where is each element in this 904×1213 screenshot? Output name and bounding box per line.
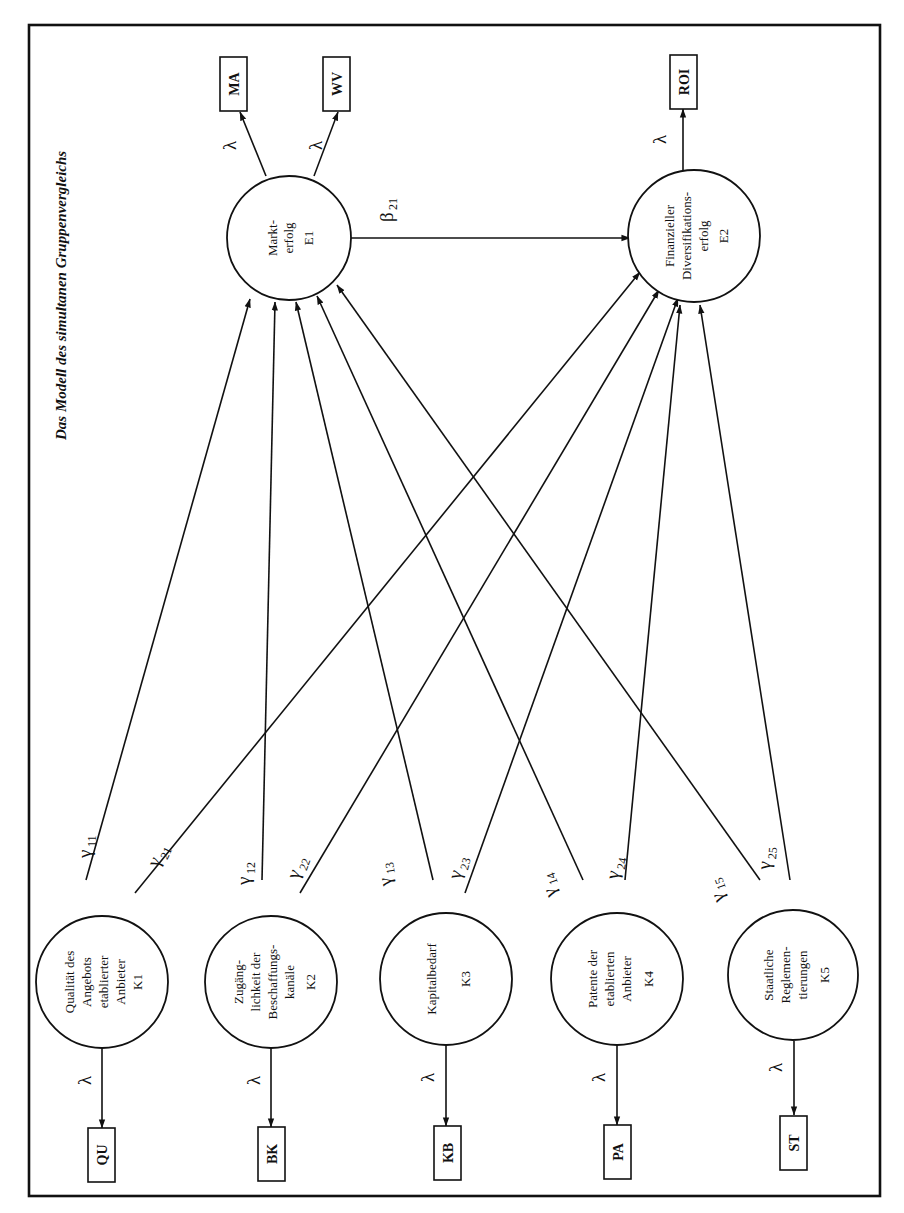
- k2-label-id: K2: [303, 974, 318, 990]
- svg-text:γ: γ: [538, 886, 561, 902]
- path-gamma-14: [317, 296, 583, 880]
- k1-label-line-4: Anbieter: [113, 959, 128, 1005]
- indicator-label-wv: WV: [330, 72, 345, 96]
- indicator-label-kb: KB: [441, 1143, 456, 1163]
- lambda-kb: λ: [417, 1072, 438, 1082]
- indicator-label-st: ST: [787, 1134, 802, 1152]
- k4-label-line-2: etablierten: [602, 951, 617, 1006]
- svg-text:λ: λ: [243, 1075, 264, 1085]
- latent-e1: Markt- erfolg E1 λ λ MA WV: [219, 57, 351, 300]
- e1-label-line-2: erfolg: [281, 222, 296, 254]
- svg-text:λ: λ: [588, 1072, 609, 1082]
- e2-circle: [628, 170, 760, 302]
- e1-label-id: E1: [301, 231, 316, 245]
- k5-label-line-1: Staatliche: [761, 949, 776, 1000]
- svg-text:λ: λ: [765, 1062, 786, 1072]
- gamma-labels: γ11 γ21 γ12 γ22 γ13 γ23 γ14 γ24 γ15 γ25: [74, 835, 780, 906]
- gamma-paths-to-e2: [135, 272, 790, 893]
- e2-label-line-2: Diversifikations-: [679, 192, 694, 280]
- lambda-bk: λ: [243, 1075, 264, 1085]
- svg-text:25: 25: [765, 847, 780, 860]
- svg-text:14: 14: [543, 871, 560, 887]
- gamma-15-label: γ15: [701, 876, 733, 907]
- lambda-ma: λ: [219, 140, 240, 150]
- svg-text:γ: γ: [753, 860, 775, 871]
- latent-k4: Patente der etablierten Anbieter K4 λ PA: [551, 913, 683, 1179]
- gamma-23-label: γ23: [443, 853, 473, 883]
- svg-text:12: 12: [244, 862, 258, 874]
- svg-text:23: 23: [457, 856, 474, 871]
- svg-text:13: 13: [382, 861, 398, 875]
- k2-label-line-2: lichkeit der: [248, 952, 263, 1012]
- lambda-pa: λ: [588, 1072, 609, 1082]
- latent-k1: Qualität des Angebots etablierter Anbiet…: [36, 916, 168, 1182]
- indicator-label-ma: MA: [227, 71, 242, 95]
- k5-label-id: K5: [817, 967, 832, 983]
- k4-label-id: K4: [641, 971, 656, 987]
- indicator-label-pa: PA: [611, 1142, 626, 1161]
- k5-label-line-2: Reglemen-: [778, 946, 793, 1003]
- path-gamma-23: [465, 298, 678, 893]
- loading-e1-ma: [240, 112, 266, 176]
- k1-label-line-1: Qualität des: [62, 951, 77, 1013]
- lambda-wv: λ: [305, 140, 326, 150]
- indicator-label-bk: BK: [265, 1144, 280, 1164]
- path-diagram: Das Modell des simultanen Gruppenverglei…: [0, 0, 904, 1213]
- svg-text:γ: γ: [601, 869, 623, 882]
- svg-text:21: 21: [386, 198, 400, 210]
- k2-label-line-3: Beschaffungs-: [265, 945, 280, 1020]
- k1-label-line-3: etablierter: [96, 955, 111, 1008]
- svg-text:β: β: [376, 212, 397, 222]
- k2-label-line-4: kanäle: [282, 965, 297, 999]
- svg-text:15: 15: [711, 876, 728, 892]
- k4-label-line-1: Patente der: [585, 949, 600, 1008]
- svg-text:λ: λ: [305, 140, 326, 150]
- k3-label-line-1: Kapitalbedarf: [424, 943, 439, 1015]
- svg-text:22: 22: [296, 856, 313, 872]
- svg-text:λ: λ: [74, 1075, 95, 1085]
- k3-circle: [380, 913, 512, 1045]
- path-gamma-22: [300, 290, 659, 893]
- latent-k5: Staatliche Reglemen- tierungen K5 λ ST: [728, 910, 858, 1170]
- k3-label-id: K3: [458, 971, 473, 987]
- gamma-21-label: γ21: [142, 840, 175, 872]
- indicator-label-roi: ROI: [677, 69, 692, 95]
- e2-label-line-1: Finanzieller: [662, 204, 677, 267]
- latent-k3: Kapitalbedarf K3 λ KB: [380, 913, 512, 1180]
- e1-label-line-1: Markt-: [265, 220, 280, 256]
- svg-text:γ: γ: [74, 850, 95, 859]
- svg-text:11: 11: [85, 835, 99, 847]
- beta-21-label: β 21: [376, 198, 400, 222]
- svg-text:λ: λ: [417, 1072, 438, 1082]
- path-gamma-21: [135, 272, 640, 893]
- gamma-paths-to-e1: [86, 285, 760, 880]
- gamma-11-label: γ11: [74, 835, 99, 859]
- path-gamma-25: [700, 305, 790, 880]
- svg-text:γ: γ: [233, 877, 254, 886]
- gamma-12-label: γ12: [233, 862, 258, 886]
- e2-label-id: E2: [716, 229, 731, 243]
- k5-circle: [728, 910, 858, 1040]
- path-gamma-24: [625, 305, 680, 880]
- k1-label-line-2: Angebots: [79, 957, 94, 1007]
- e2-label-line-3: erfolg: [696, 220, 711, 252]
- gamma-13-label: γ13: [371, 861, 400, 889]
- path-gamma-12: [262, 302, 275, 880]
- k4-circle: [551, 913, 683, 1045]
- k5-label-line-3: tierungen: [795, 950, 810, 1000]
- svg-text:24: 24: [614, 856, 630, 870]
- indicator-label-qu: QU: [95, 1145, 110, 1166]
- svg-text:γ: γ: [374, 876, 396, 889]
- gamma-14-label: γ14: [533, 871, 565, 902]
- diagram-canvas: Das Modell des simultanen Gruppenverglei…: [0, 0, 904, 1213]
- path-gamma-15: [337, 285, 760, 880]
- k4-label-line-3: Anbieter: [619, 956, 634, 1002]
- svg-text:λ: λ: [649, 134, 670, 144]
- lambda-roi: λ: [649, 134, 670, 144]
- path-gamma-11: [86, 299, 250, 880]
- svg-text:γ: γ: [706, 891, 729, 907]
- gamma-25-label: γ25: [753, 846, 780, 872]
- lambda-qu: λ: [74, 1075, 95, 1085]
- latent-e2: Finanzieller Diversifikations- erfolg E2…: [628, 55, 760, 302]
- k1-label-id: K1: [130, 974, 145, 990]
